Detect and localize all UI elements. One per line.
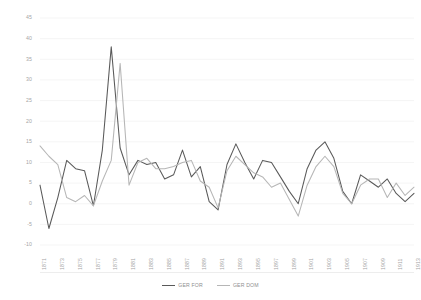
x-tick-label: 1905 bbox=[345, 258, 350, 270]
x-tick-label: 1877 bbox=[96, 258, 101, 270]
series-line-ger-dom bbox=[40, 63, 414, 216]
y-tick-label: 10 bbox=[14, 160, 32, 165]
legend-swatch-icon bbox=[162, 285, 175, 286]
y-tick-label: 0 bbox=[14, 201, 32, 206]
y-tick-label: 15 bbox=[14, 139, 32, 144]
x-tick-label: 1871 bbox=[42, 258, 47, 270]
x-tick-label: 1913 bbox=[416, 258, 421, 270]
x-tick-label: 1879 bbox=[113, 258, 118, 270]
x-tick-label: 1883 bbox=[149, 258, 154, 270]
x-tick-label: 1875 bbox=[78, 258, 83, 270]
x-tick-label: 1893 bbox=[238, 258, 243, 270]
y-tick-label: 40 bbox=[14, 36, 32, 41]
x-tick-label: 1891 bbox=[220, 258, 225, 270]
legend-label: GER FOR bbox=[178, 283, 203, 288]
y-tick-label: 45 bbox=[14, 15, 32, 20]
legend-item-ger-for[interactable]: GER FOR bbox=[162, 283, 203, 288]
series-line-ger-for bbox=[40, 47, 414, 229]
y-tick-label: -10 bbox=[14, 242, 32, 247]
chart-legend: GER FORGER DOM bbox=[0, 283, 421, 288]
x-tick-label: 1903 bbox=[327, 258, 332, 270]
y-tick-label: 35 bbox=[14, 57, 32, 62]
legend-item-ger-dom[interactable]: GER DOM bbox=[217, 283, 259, 288]
x-tick-label: 1909 bbox=[381, 258, 386, 270]
chart-plot-area bbox=[0, 0, 421, 300]
x-tick-label: 1911 bbox=[398, 258, 403, 270]
x-tick-label: 1885 bbox=[167, 258, 172, 270]
x-tick-label: 1901 bbox=[309, 258, 314, 270]
legend-swatch-icon bbox=[217, 285, 230, 286]
x-tick-label: 1895 bbox=[256, 258, 261, 270]
x-tick-label: 1887 bbox=[185, 258, 190, 270]
legend-label: GER DOM bbox=[233, 283, 259, 288]
x-tick-label: 1907 bbox=[363, 258, 368, 270]
x-tick-label: 1881 bbox=[131, 258, 136, 270]
y-tick-label: 30 bbox=[14, 77, 32, 82]
gridlines bbox=[40, 18, 414, 273]
x-tick-label: 1873 bbox=[60, 258, 65, 270]
line-chart: 454035302520151050-5-10 1871187318751877… bbox=[0, 0, 421, 300]
y-tick-label: 25 bbox=[14, 98, 32, 103]
x-tick-label: 1899 bbox=[292, 258, 297, 270]
x-tick-label: 1889 bbox=[202, 258, 207, 270]
y-tick-label: 20 bbox=[14, 119, 32, 124]
x-tick-label: 1897 bbox=[274, 258, 279, 270]
y-tick-label: -5 bbox=[14, 222, 32, 227]
series-lines bbox=[40, 47, 414, 229]
y-tick-label: 5 bbox=[14, 180, 32, 185]
